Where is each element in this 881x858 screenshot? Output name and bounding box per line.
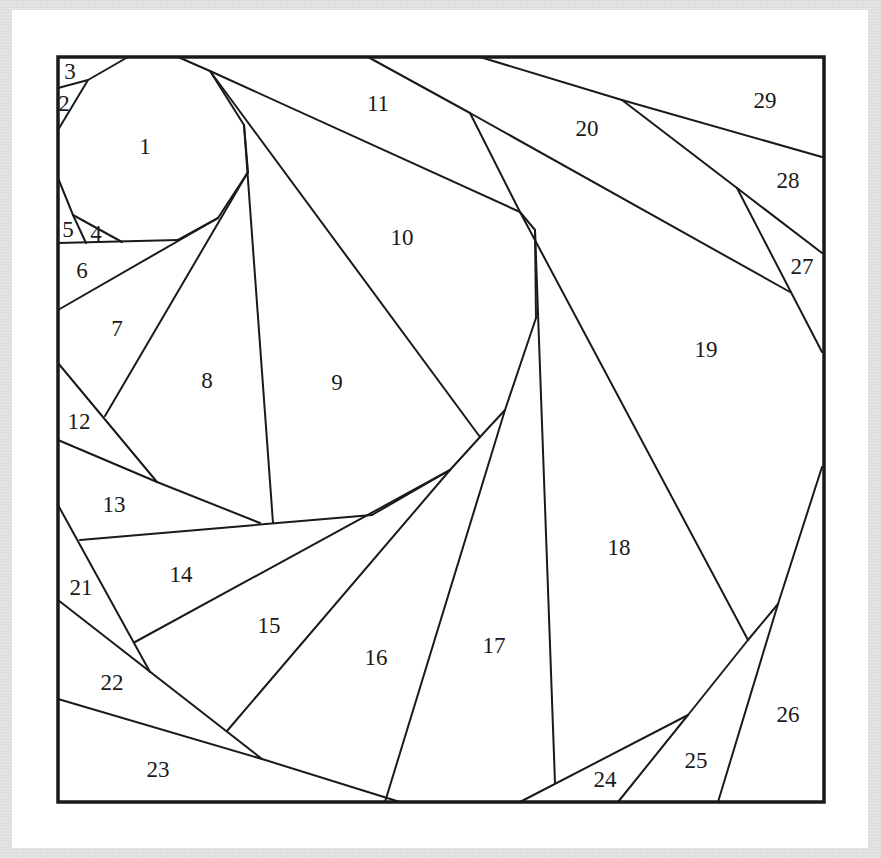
seam-line bbox=[58, 440, 157, 482]
seam-line bbox=[737, 188, 822, 253]
seam-line bbox=[58, 699, 262, 759]
seam-line bbox=[688, 640, 748, 715]
piece-label-25: 25 bbox=[685, 748, 708, 773]
seam-line bbox=[227, 470, 450, 731]
piece-label-2: 2 bbox=[58, 91, 70, 116]
piece-label-21: 21 bbox=[70, 575, 93, 600]
piece-label-19: 19 bbox=[695, 337, 718, 362]
seam-line bbox=[385, 410, 505, 802]
piece-label-18: 18 bbox=[608, 535, 631, 560]
seam-line bbox=[88, 57, 128, 80]
seam-line bbox=[450, 437, 480, 470]
paper-piecing-diagram: 1234567891011121314151617181920212223242… bbox=[0, 0, 881, 858]
piece-label-20: 20 bbox=[576, 116, 599, 141]
seam-line bbox=[210, 71, 520, 212]
piece-label-6: 6 bbox=[76, 258, 88, 283]
piece-label-7: 7 bbox=[111, 316, 123, 341]
seam-line bbox=[58, 600, 262, 759]
seam-line bbox=[718, 604, 778, 802]
seam-line bbox=[622, 100, 822, 157]
seam-line bbox=[244, 125, 273, 523]
piece-label-24: 24 bbox=[594, 767, 618, 792]
piece-label-23: 23 bbox=[147, 757, 170, 782]
piece-label-4: 4 bbox=[90, 221, 102, 246]
piece-label-5: 5 bbox=[62, 217, 74, 242]
piece-label-8: 8 bbox=[201, 368, 213, 393]
piece-label-3: 3 bbox=[64, 59, 76, 84]
seam-line bbox=[622, 100, 737, 188]
piece-label-15: 15 bbox=[258, 613, 281, 638]
piece-label-28: 28 bbox=[777, 168, 800, 193]
seam-line bbox=[470, 113, 790, 292]
seam-line bbox=[157, 482, 260, 523]
piece-label-22: 22 bbox=[101, 670, 124, 695]
seam-line bbox=[105, 172, 248, 416]
seam-line bbox=[58, 178, 73, 215]
piece-label-11: 11 bbox=[367, 91, 389, 116]
pattern-lines bbox=[58, 57, 822, 802]
piece-label-10: 10 bbox=[391, 225, 414, 250]
seam-line bbox=[178, 57, 210, 71]
seam-line bbox=[505, 318, 536, 410]
piece-label-1: 1 bbox=[139, 134, 151, 159]
seam-line bbox=[480, 57, 622, 100]
piece-label-29: 29 bbox=[754, 88, 777, 113]
piece-label-12: 12 bbox=[68, 409, 91, 434]
seam-line bbox=[135, 470, 450, 642]
piece-label-16: 16 bbox=[365, 645, 388, 670]
piece-labels: 1234567891011121314151617181920212223242… bbox=[58, 59, 813, 792]
seam-line bbox=[210, 71, 480, 437]
piece-label-14: 14 bbox=[170, 562, 194, 587]
piece-label-13: 13 bbox=[103, 492, 126, 517]
piece-label-9: 9 bbox=[331, 370, 343, 395]
piece-label-27: 27 bbox=[791, 254, 814, 279]
seam-line bbox=[535, 230, 555, 783]
seam-line bbox=[262, 759, 400, 802]
piece-label-26: 26 bbox=[777, 702, 800, 727]
piece-label-17: 17 bbox=[483, 633, 506, 658]
seam-line bbox=[520, 212, 748, 640]
seam-line bbox=[778, 467, 822, 604]
seam-line bbox=[618, 715, 688, 802]
